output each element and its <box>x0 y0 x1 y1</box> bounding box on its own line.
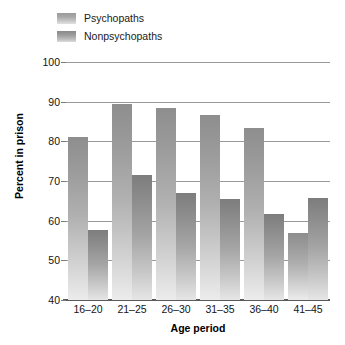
legend-swatch-nonpsychopaths <box>57 31 76 42</box>
bar-psychopaths-26–30[interactable] <box>156 108 176 300</box>
legend-item-nonpsychopaths: Nonpsychopaths <box>57 28 237 44</box>
chart-container: Psychopaths Nonpsychopaths Percent in pr… <box>0 0 345 345</box>
bar-nonpsychopaths-41–45[interactable] <box>308 198 328 300</box>
bar-psychopaths-36–40[interactable] <box>244 128 264 300</box>
bar-group <box>244 62 284 300</box>
y-axis-tick <box>61 141 66 142</box>
x-axis-tick-label: 36–40 <box>242 303 286 315</box>
legend-swatch-psychopaths <box>57 13 76 24</box>
y-axis-tick <box>61 181 66 182</box>
bar-nonpsychopaths-31–35[interactable] <box>220 199 240 300</box>
bar-nonpsychopaths-21–25[interactable] <box>132 175 152 300</box>
y-axis-tick <box>61 260 66 261</box>
bar-nonpsychopaths-16–20[interactable] <box>88 230 108 300</box>
legend-label-psychopaths: Psychopaths <box>84 12 144 24</box>
x-axis-tick-label: 26–30 <box>154 303 198 315</box>
bar-nonpsychopaths-36–40[interactable] <box>264 214 284 300</box>
y-axis-title: Percent in prison <box>13 96 25 216</box>
x-axis-title: Age period <box>66 322 330 334</box>
plot-area <box>66 62 330 300</box>
y-axis-tick <box>61 62 66 63</box>
x-axis-tick-label: 41–45 <box>286 303 330 315</box>
bar-group <box>200 62 240 300</box>
bar-psychopaths-41–45[interactable] <box>288 233 308 300</box>
x-axis-labels: 16–2021–2526–3031–3536–4041–45 <box>66 303 330 319</box>
bar-psychopaths-21–25[interactable] <box>112 104 132 300</box>
y-axis-tick-label: 100 <box>34 57 60 67</box>
x-axis-tick-label: 21–25 <box>110 303 154 315</box>
chart-legend: Psychopaths Nonpsychopaths <box>57 10 237 46</box>
y-axis-tick-label: 50 <box>34 255 60 265</box>
bar-psychopaths-31–35[interactable] <box>200 115 220 300</box>
y-axis-tick-label: 90 <box>34 97 60 107</box>
x-axis-tick-label: 31–35 <box>198 303 242 315</box>
bar-group <box>68 62 108 300</box>
bar-group <box>156 62 196 300</box>
y-axis-tick-label: 80 <box>34 136 60 146</box>
y-axis-tick <box>61 300 66 301</box>
y-axis-labels: 405060708090100 <box>32 62 60 300</box>
legend-item-psychopaths: Psychopaths <box>57 10 237 26</box>
bar-group <box>288 62 328 300</box>
x-axis-tick-label: 16–20 <box>66 303 110 315</box>
y-axis-tick-label: 70 <box>34 176 60 186</box>
bar-psychopaths-16–20[interactable] <box>68 137 88 300</box>
legend-label-nonpsychopaths: Nonpsychopaths <box>84 30 162 42</box>
bar-nonpsychopaths-26–30[interactable] <box>176 193 196 300</box>
y-axis-tick-label: 60 <box>34 216 60 226</box>
y-axis-tick <box>61 102 66 103</box>
y-axis-tick-label: 40 <box>34 295 60 305</box>
bar-group <box>112 62 152 300</box>
y-axis-tick <box>61 221 66 222</box>
